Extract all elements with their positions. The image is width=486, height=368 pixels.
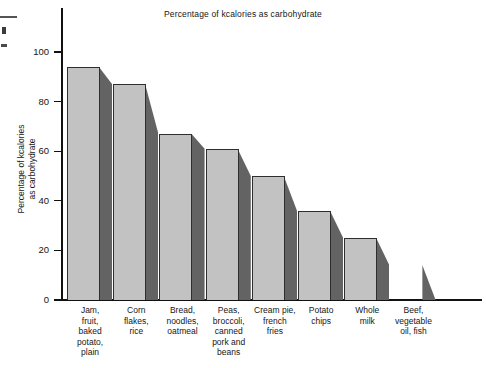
chart-figure: Percentage of kcalories as carbohydrate … (0, 0, 486, 368)
y-tick-label-100: 100 (9, 46, 49, 57)
y-axis-label: Percentage of kcalories as carbohydrate (16, 99, 38, 239)
y-tick-label-60: 60 (9, 145, 49, 156)
page-bleed-mark-1 (2, 27, 6, 34)
y-tick-40 (54, 200, 62, 201)
bar-front-6 (344, 238, 377, 300)
bar-front-4 (252, 176, 285, 300)
category-label-0-line-4: plain (61, 347, 119, 358)
y-axis-label-line-1: Percentage of kcalories (16, 99, 27, 239)
y-tick-label-0: 0 (9, 294, 49, 305)
category-label-7-line-1: vegetable (384, 316, 442, 327)
category-label-0-line-3: potato, (61, 337, 119, 348)
category-label-4-line-2: fries (246, 326, 304, 337)
category-label-7-line-0: Beef, (384, 305, 442, 316)
bar-front-0 (67, 67, 100, 300)
bar-front-2 (159, 134, 192, 300)
bar-side-2 (191, 134, 204, 300)
category-label-7-line-2: oil, fish (384, 326, 442, 337)
bar-side-0 (99, 67, 112, 300)
category-label-7: Beef,vegetableoil, fish (384, 305, 442, 337)
category-label-3-line-4: beans (200, 347, 258, 358)
y-tick-label-20: 20 (9, 244, 49, 255)
bar-front-1 (113, 84, 146, 300)
bar-front-3 (206, 149, 239, 300)
category-label-3-line-3: pork and (200, 337, 258, 348)
y-tick-100 (54, 51, 62, 52)
bar-front-5 (298, 211, 331, 300)
y-tick-20 (54, 250, 62, 251)
y-tick-80 (54, 101, 62, 102)
y-tick-label-40: 40 (9, 195, 49, 206)
y-tick-60 (54, 151, 62, 152)
y-tick-0 (54, 299, 62, 300)
y-tick-label-80: 80 (9, 96, 49, 107)
y-axis-label-line-2: as carbohydrate (27, 99, 38, 239)
page-bleed-mark-2 (1, 44, 7, 47)
